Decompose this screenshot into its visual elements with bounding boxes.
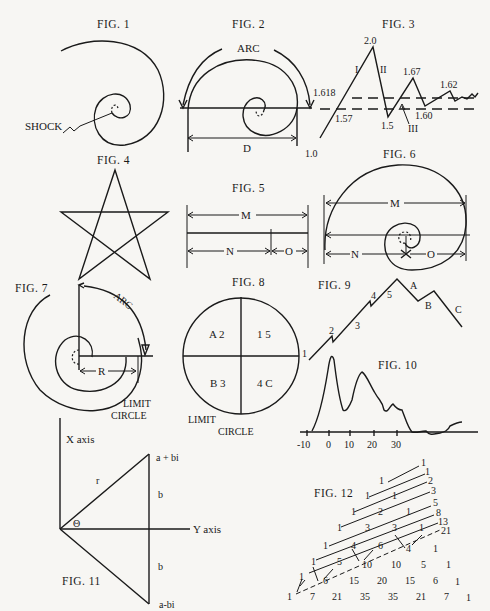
fig9-wave-5: 5: [387, 289, 392, 300]
fig4-star: [61, 170, 168, 279]
fig12-r5-2: 10: [362, 559, 372, 570]
fig5-division: FIG. 5 M N O: [187, 182, 308, 268]
fig6-n-label: N: [351, 248, 359, 260]
diagram-sheet: FIG. 1 SHOCK FIG. 2 ARC D FIG. 3 1.0 1.6…: [0, 0, 490, 611]
fig1-caption: FIG. 1: [97, 18, 130, 30]
fig3-label-1-67: 1.67: [403, 66, 421, 77]
fig8-quadrant-b3: B 3: [210, 377, 226, 389]
fig9-wave-a: A: [410, 280, 418, 291]
fig8-caption: FIG. 8: [232, 276, 265, 288]
fig10-tick-label-10: 10: [344, 439, 354, 450]
fig5-m-label: M: [241, 209, 251, 221]
fig10-tick-label-30: 30: [391, 439, 401, 450]
fig6-o-label: O: [427, 248, 435, 260]
fig8-quadrant-a2: A 2: [209, 328, 225, 340]
fig12-r1-0: 1: [365, 490, 370, 501]
fig11-x-axis-label: X axis: [66, 433, 94, 445]
fig8-quadrant-circle: FIG. 8 A 2 1 5 B 3 4 C LIMIT CIRCLE: [183, 276, 299, 437]
fig9-wave-1: 1: [302, 348, 307, 359]
fig3-wave-ii: II: [380, 64, 387, 75]
fig12-r5-1: 5: [337, 556, 342, 567]
fig2-arc-label: ARC: [237, 42, 260, 54]
fig12-caption: FIG. 12: [314, 487, 353, 499]
fig9-wave-b: B: [425, 300, 432, 311]
fig9-wave-4: 4: [371, 290, 376, 301]
fig12-r0-0: 1: [379, 475, 384, 486]
fig12-r4-1: 4: [351, 540, 356, 551]
fig7-arc-label: ARC: [112, 290, 135, 312]
fig6-caption: FIG. 6: [383, 148, 416, 160]
fig11-b-bottom: b: [158, 561, 163, 572]
fig3-label-1-60: 1.60: [415, 110, 433, 121]
fig1-shock-label: SHOCK: [25, 120, 62, 132]
fig12-pascal-fibonacci: FIG. 12 1 1 2 3 5 8 13 21 1 1 1 1 2 1 1 …: [287, 457, 471, 603]
fig2-spiral: FIG. 2 ARC D: [179, 18, 314, 154]
fig10-tick-label--10: -10: [297, 439, 310, 450]
fig12-r7-6: 7: [444, 591, 449, 602]
fig7-inner-spiral: [56, 336, 127, 391]
fig11-conjugate-vector: [60, 529, 149, 604]
fig12-r2-0: 1: [351, 506, 356, 517]
fig11-caption: FIG. 11: [62, 575, 101, 587]
fig4-pentagram: FIG. 4: [61, 154, 168, 279]
fig12-r7-5: 21: [416, 591, 426, 602]
fig12-r6-2: 15: [349, 575, 359, 586]
fig3-caption: FIG. 3: [382, 18, 415, 30]
fig10-tick-label-20: 20: [367, 439, 377, 450]
fig12-r7-3: 35: [360, 591, 370, 602]
fig12-r6-3: 20: [377, 575, 387, 586]
fig11-y-axis-label: Y axis: [193, 523, 221, 535]
fig12-fib-7: 21: [441, 525, 451, 536]
fig11-b-top: b: [158, 489, 163, 500]
fig12-r5-5: 1: [446, 559, 451, 570]
fig1-spiral-core: [112, 105, 118, 113]
fig12-r7-2: 21: [332, 591, 342, 602]
fig6-m-label: M: [390, 197, 400, 209]
fig12-r7-0: 1: [287, 591, 292, 602]
fig8-limit-label: LIMIT: [188, 414, 216, 425]
fig12-r2-1: 2: [378, 506, 383, 517]
fig9-wave-line: [309, 279, 462, 360]
fig12-r4-3: 4: [406, 543, 411, 554]
fig9-wave-2: 2: [329, 325, 334, 336]
fig7-top-arrowhead: [79, 283, 84, 288]
fig1-shock-line: [63, 113, 112, 133]
fig7-circle-label: CIRCLE: [111, 410, 147, 421]
fig12-r4-2: 6: [378, 540, 383, 551]
fig10-tick-label-0: 0: [326, 439, 331, 450]
fig12-r2-2: 1: [406, 506, 411, 517]
fig3-wave: FIG. 3 1.0 1.618 1.57 2.0 I II 1.5 1.67 …: [305, 18, 480, 159]
fig1-spiral: FIG. 1 SHOCK: [25, 18, 164, 145]
fig7-caption: FIG. 7: [15, 282, 48, 294]
fig7-limit-label: LIMIT: [123, 398, 151, 409]
fig12-r7-4: 35: [388, 591, 398, 602]
fig6-spiral-core: [399, 232, 411, 243]
fig2-spiral-core: [256, 110, 264, 116]
fig7-outer-spiral: [24, 295, 142, 411]
fig12-r5-0: 1: [311, 556, 316, 567]
fig8-quadrant-15: 1 5: [257, 328, 271, 340]
fig11-a-plus-bi: a + bi: [156, 452, 179, 463]
fig7-spiral-core: [72, 350, 79, 364]
fig3-label-1-57: 1.57: [335, 113, 353, 124]
fig2-arc-arrow-right: [274, 50, 310, 105]
fig11-complex-plane: X axis Y axis a + bi r b Θ b FIG. 11 a-b…: [60, 418, 221, 610]
fig3-label-2-0: 2.0: [364, 35, 377, 46]
fig8-quadrant-4c: 4 C: [257, 377, 273, 389]
fig7-r-label: R: [98, 365, 106, 377]
fig5-o-label: O: [285, 245, 293, 257]
fig12-r4-0: 1: [323, 540, 328, 551]
fig4-caption: FIG. 4: [97, 154, 130, 166]
fig12-r4-4: 1: [433, 543, 438, 554]
fig8-circle-label: CIRCLE: [218, 426, 254, 437]
fig7-spiral: FIG. 7 ARC R LIMIT CIRCLE: [15, 282, 153, 421]
fig12-fib-3: 3: [431, 485, 436, 496]
fig12-r6-6: 1: [455, 576, 460, 587]
fig12-r6-0: 1: [299, 571, 304, 582]
fig12-diag-1: [388, 466, 419, 482]
fig11-theta: Θ: [73, 518, 80, 529]
fig3-label-1-618: 1.618: [313, 87, 336, 98]
fig3-wave-i: I: [355, 64, 358, 75]
fig11-r-label: r: [96, 475, 100, 486]
fig12-r5-3: 10: [391, 559, 401, 570]
